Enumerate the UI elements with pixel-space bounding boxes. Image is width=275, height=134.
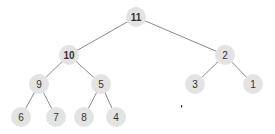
tree-node-9: 9 <box>29 74 49 94</box>
tree-node-10: 10 <box>59 45 79 65</box>
node-label: 10 <box>63 50 75 61</box>
tree-node-2: 2 <box>215 45 235 65</box>
edge-11-10 <box>69 17 136 55</box>
tree-node-11: 11 <box>126 7 146 27</box>
node-label: 8 <box>81 112 87 123</box>
tree-diagram: 1110295316784 <box>0 0 275 134</box>
tree-node-4: 4 <box>106 107 126 127</box>
tree-node-3: 3 <box>185 74 205 94</box>
stray-marks <box>181 105 182 108</box>
node-label: 7 <box>53 112 59 123</box>
tree-node-7: 7 <box>46 107 66 127</box>
tree-edges <box>21 17 253 117</box>
tree-node-6: 6 <box>11 107 31 127</box>
node-label: 9 <box>36 79 42 90</box>
node-label: 2 <box>222 50 228 61</box>
node-label: 5 <box>98 79 104 90</box>
node-label: 11 <box>131 12 142 23</box>
node-label: 6 <box>18 112 24 123</box>
node-label: 4 <box>113 112 119 123</box>
node-label: 1 <box>250 79 256 90</box>
node-label: 3 <box>192 79 198 90</box>
tree-nodes: 1110295316784 <box>11 7 263 127</box>
tree-node-5: 5 <box>91 74 111 94</box>
stray-mark <box>181 105 182 108</box>
edge-11-2 <box>136 17 225 55</box>
tree-node-1: 1 <box>243 74 263 94</box>
tree-node-8: 8 <box>74 107 94 127</box>
